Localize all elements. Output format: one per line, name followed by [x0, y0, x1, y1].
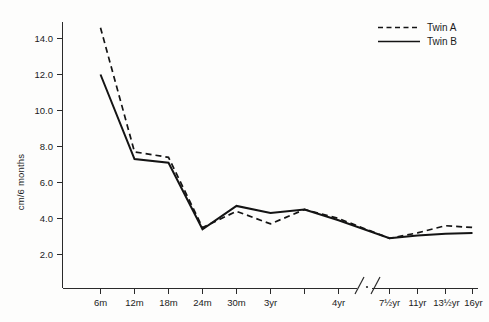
y-tick-label: 8.0	[40, 141, 53, 152]
legend-label-twin-a: Twin A	[427, 22, 457, 33]
x-tick-label: 18m	[159, 297, 178, 308]
x-axis-ticks	[101, 289, 473, 295]
y-tick-label: 6.0	[40, 177, 53, 188]
x-tick-label: 4yr	[332, 297, 345, 308]
y-axis-tick-labels: 14.0 12.0 10.0 8.0 6.0 4.0 2.0	[35, 33, 54, 260]
y-tick-label: 14.0	[35, 33, 54, 44]
y-axis-ticks	[57, 39, 63, 255]
axis-break-marker	[355, 277, 380, 294]
y-tick-label: 10.0	[35, 105, 54, 116]
y-tick-label: 2.0	[40, 249, 53, 260]
x-tick-label: 6m	[94, 297, 107, 308]
x-tick-label: 11yr	[409, 297, 427, 308]
series-line-twin-a	[101, 28, 473, 239]
chart-legend: Twin A Twin B	[378, 22, 457, 47]
x-tick-label: 13½yr	[433, 297, 459, 308]
x-tick-label: 16yr	[464, 297, 482, 308]
y-tick-label: 4.0	[40, 213, 53, 224]
x-tick-label: 30m	[227, 297, 246, 308]
x-tick-label: 12m	[125, 297, 144, 308]
series-line-twin-b	[101, 75, 473, 239]
x-axis-tick-labels: 6m 12m 18m 24m 30m 3yr 4yr 7½yr 11yr 13½…	[94, 297, 483, 308]
chart-canvas: 14.0 12.0 10.0 8.0 6.0 4.0 2.0 cm/6 mont…	[0, 0, 489, 322]
x-tick-label: 7½yr	[379, 297, 400, 308]
legend-label-twin-b: Twin B	[427, 36, 457, 47]
x-tick-label: 24m	[193, 297, 212, 308]
y-axis-title: cm/6 months	[15, 154, 26, 211]
y-tick-label: 12.0	[35, 69, 54, 80]
x-tick-label: 3yr	[264, 297, 277, 308]
growth-velocity-chart: 14.0 12.0 10.0 8.0 6.0 4.0 2.0 cm/6 mont…	[0, 0, 489, 322]
